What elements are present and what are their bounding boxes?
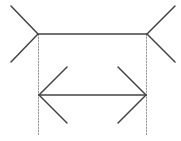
bottom-right-fin-0	[118, 67, 146, 95]
dotted-guide-lines	[39, 34, 147, 135]
top-right-fin-1	[147, 34, 175, 62]
top-figure-fins-out	[11, 6, 175, 62]
bottom-left-fin-0	[39, 67, 67, 95]
top-left-fin-0	[11, 6, 38, 34]
bottom-left-fin-1	[39, 95, 67, 123]
top-left-fin-1	[11, 34, 38, 62]
muller-lyer-diagram	[0, 0, 181, 141]
top-right-fin-0	[147, 6, 175, 34]
bottom-figure-arrowheads-in	[39, 67, 146, 123]
bottom-right-fin-1	[118, 95, 146, 123]
